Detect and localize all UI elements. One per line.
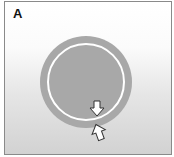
figure-panel: A bbox=[4, 1, 172, 155]
diagram bbox=[5, 2, 171, 154]
outer-disc bbox=[40, 36, 132, 128]
